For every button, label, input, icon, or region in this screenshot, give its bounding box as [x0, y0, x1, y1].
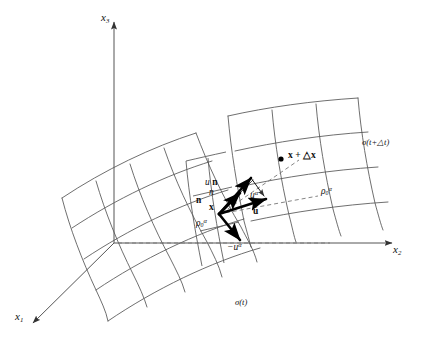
surface-label-sigma-t-plus-dt: σ(t+△t) — [362, 138, 389, 147]
vector-label-n-bold: n — [196, 196, 201, 206]
diagram-canvas: x3 x2 x1 σ(t) σ(t+△t) x x + △x u n n n u… — [0, 0, 428, 348]
axis-label-x2: x2 — [393, 244, 401, 257]
vector-label-n-italic: n — [209, 188, 214, 198]
vector-label-u-alpha: uα — [250, 190, 258, 200]
vector-minus-u-alpha-arrow — [219, 214, 240, 240]
surface-sigma-t-plus-dt-mesh — [228, 98, 388, 247]
axis-label-x3: x3 — [101, 12, 109, 25]
dashed-guides — [118, 160, 330, 243]
surface-label-sigma-t: σ(t) — [235, 298, 247, 307]
point-x-plus-dx-dot — [278, 156, 283, 161]
density-label-rho-zero-alpha-left: ρ0α — [196, 218, 207, 229]
diagram-vector-graphics — [0, 0, 428, 348]
vector-label-u-bold: u — [253, 207, 258, 217]
axis-x1-line — [33, 243, 114, 323]
vector-label-minus-u-alpha: −uα — [227, 242, 242, 252]
dashed-x-to-xdx — [222, 160, 299, 213]
density-label-rho-zero-alpha-right: ρ0α — [321, 186, 332, 197]
surface-overlap-cells — [186, 158, 224, 266]
axis-label-x1: x1 — [15, 311, 23, 324]
point-label-x-plus-dx: x + △x — [288, 151, 316, 161]
point-label-x: x — [209, 203, 214, 213]
